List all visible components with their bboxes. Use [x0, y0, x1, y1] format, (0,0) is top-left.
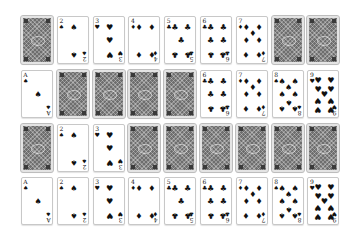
card-4-of-diamonds[interactable]: 4♦4♦♦♦♦♦ [128, 16, 160, 64]
card-index-top-left: A♠ [23, 72, 28, 84]
card-back-emblem [317, 36, 331, 46]
diamond-pip-icon: ♦ [135, 211, 143, 219]
card-back-corner [24, 57, 28, 61]
card-6-of-clubs[interactable]: 6♣6♣♣♣♣♣♣♣ [200, 70, 232, 118]
club-pip-icon: ♣ [207, 198, 215, 206]
card-face-down[interactable] [21, 16, 53, 64]
spade-pip-icon: ♠ [70, 24, 78, 32]
card-2-of-spades[interactable]: 2♠2♠♠♠ [57, 16, 89, 64]
card-face-down[interactable] [128, 70, 160, 118]
heart-pip-icon: ♥ [106, 37, 114, 45]
card-6-of-clubs[interactable]: 6♣6♣♣♣♣♣♣♣ [200, 177, 232, 225]
card-face-down[interactable] [307, 124, 339, 172]
diamond-pip-icon: ♦ [242, 91, 250, 99]
card-back-corner [82, 111, 86, 115]
heart-pip-icon: ♥ [314, 203, 322, 211]
card-back-corner [275, 19, 279, 23]
card-back-emblem [138, 144, 152, 154]
diamond-pip-icon: ♦ [255, 91, 263, 99]
club-pip-icon: ♣ [207, 91, 215, 99]
card-a-of-spades[interactable]: A♠A♠♠ [21, 70, 53, 118]
card-back-emblem [31, 144, 45, 154]
diamond-pip-icon: ♦ [255, 104, 263, 112]
card-back-corner [297, 165, 301, 169]
card-back-corner [60, 111, 64, 115]
card-face-down[interactable] [164, 124, 196, 172]
heart-pip-icon: ♥ [106, 185, 114, 193]
card-6-of-clubs[interactable]: 6♣6♣♣♣♣♣♣♣ [200, 16, 232, 64]
card-back-emblem [246, 144, 260, 154]
card-9-of-hearts[interactable]: 9♥9♥♥♥♥♥♥♥♥♥♥ [307, 70, 339, 118]
heart-pip-icon: ♥ [314, 212, 322, 220]
card-back-corner [153, 73, 157, 77]
card-back-corner [167, 127, 171, 131]
card-3-of-hearts[interactable]: 3♥3♥♥♥♥ [93, 124, 125, 172]
card-back-corner [297, 57, 301, 61]
card-back-corner [332, 165, 336, 169]
diamond-pip-icon: ♦ [148, 211, 156, 219]
card-3-of-hearts[interactable]: 3♥3♥♥♥♥ [93, 16, 125, 64]
heart-pip-icon: ♥ [106, 50, 114, 58]
card-face-down[interactable] [93, 70, 125, 118]
card-back-emblem [282, 144, 296, 154]
card-2-of-spades[interactable]: 2♠2♠♠♠ [57, 124, 89, 172]
card-face-down[interactable] [57, 70, 89, 118]
diamond-pip-icon: ♦ [255, 198, 263, 206]
card-9-of-hearts[interactable]: 9♥9♥♥♥♥♥♥♥♥♥♥ [307, 177, 339, 225]
card-back-emblem [174, 90, 188, 100]
spade-pip-icon: ♠ [291, 211, 299, 219]
heart-pip-icon: ♥ [327, 203, 335, 211]
card-back-corner [46, 165, 50, 169]
card-face-down[interactable] [21, 124, 53, 172]
card-index-top-left: 2♠ [59, 18, 64, 30]
card-index-bottom-right: 2♠ [82, 158, 87, 170]
card-back-corner [275, 127, 279, 131]
club-pip-icon: ♣ [219, 24, 227, 32]
card-back-corner [310, 127, 314, 131]
club-pip-icon: ♣ [219, 185, 227, 193]
club-pip-icon: ♣ [219, 104, 227, 112]
card-back-emblem [67, 90, 81, 100]
card-4-of-diamonds[interactable]: 4♦4♦♦♦♦♦ [128, 177, 160, 225]
card-face-down[interactable] [272, 124, 304, 172]
club-pip-icon: ♣ [171, 211, 179, 219]
card-back-corner [153, 127, 157, 131]
spade-pip-icon: ♠ [70, 158, 78, 166]
card-7-of-diamonds[interactable]: 7♦7♦♦♦♦♦♦♦♦ [236, 16, 268, 64]
card-face-down[interactable] [307, 16, 339, 64]
diamond-pip-icon: ♦ [242, 104, 250, 112]
card-index-bottom-right: A♠ [46, 211, 51, 223]
diamond-pip-icon: ♦ [135, 24, 143, 32]
card-face-down[interactable] [272, 16, 304, 64]
card-back-corner [167, 73, 171, 77]
card-7-of-diamonds[interactable]: 7♦7♦♦♦♦♦♦♦♦ [236, 70, 268, 118]
card-back-corner [96, 111, 100, 115]
card-8-of-spades[interactable]: 8♠8♠♠♠♠♠♠♠♠♠ [272, 70, 304, 118]
diamond-pip-icon: ♦ [242, 50, 250, 58]
card-back-corner [131, 127, 135, 131]
card-a-of-spades[interactable]: A♠A♠♠ [21, 177, 53, 225]
card-3-of-hearts[interactable]: 3♥3♥♥♥♥ [93, 177, 125, 225]
card-back-corner [310, 57, 314, 61]
spade-pip-icon: ♠ [34, 91, 42, 99]
spade-pip-icon: ♠ [70, 211, 78, 219]
card-face-down[interactable] [128, 124, 160, 172]
card-back-emblem [174, 144, 188, 154]
card-8-of-spades[interactable]: 8♠8♠♠♠♠♠♠♠♠♠ [272, 177, 304, 225]
card-index-top-left: 3♥ [95, 18, 100, 30]
heart-pip-icon: ♥ [314, 77, 322, 85]
card-back-corner [46, 19, 50, 23]
card-5-of-clubs[interactable]: 5♣5♣♣♣♣♣♣ [164, 16, 196, 64]
card-7-of-diamonds[interactable]: 7♦7♦♦♦♦♦♦♦♦ [236, 177, 268, 225]
card-back-corner [203, 127, 207, 131]
card-back-corner [275, 57, 279, 61]
card-face-down[interactable] [164, 70, 196, 118]
card-back-corner [332, 57, 336, 61]
card-back-corner [153, 165, 157, 169]
card-face-down[interactable] [236, 124, 268, 172]
card-face-down[interactable] [200, 124, 232, 172]
card-index-bottom-right: 2♠ [82, 211, 87, 223]
card-2-of-spades[interactable]: 2♠2♠♠♠ [57, 177, 89, 225]
card-5-of-clubs[interactable]: 5♣5♣♣♣♣♣♣ [164, 177, 196, 225]
card-back-corner [24, 19, 28, 23]
